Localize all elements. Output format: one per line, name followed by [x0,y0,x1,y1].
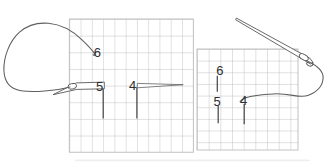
left-label-6: 6 [94,45,101,60]
left-label-4: 4 [129,78,136,93]
left-label-5: 5 [96,79,103,94]
right-label-4: 4 [240,93,247,108]
right-grid-cells [197,49,298,150]
stitch-diagram: 6 5 4 6 5 4 [0,0,334,163]
right-needle-eye [298,52,309,62]
diagram-canvas: 6 5 4 6 5 4 [0,0,334,163]
right-label-6: 6 [216,63,223,78]
right-label-5: 5 [213,94,220,109]
right-fabric-grid [197,49,298,150]
page-shadow [75,160,310,162]
